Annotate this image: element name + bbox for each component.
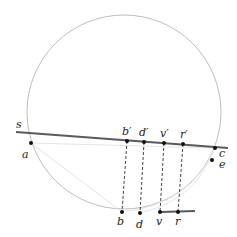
label-r_prime: r′ xyxy=(180,128,188,141)
label-b_prime: b′ xyxy=(122,125,132,138)
label-b: b xyxy=(117,215,124,228)
label-a: a xyxy=(22,148,29,161)
point-r_prime xyxy=(181,142,185,146)
label-d_prime: d′ xyxy=(139,126,149,139)
label-d: d xyxy=(136,218,143,231)
dashed-line xyxy=(178,144,183,212)
label-v_prime: v′ xyxy=(160,127,169,140)
point-e xyxy=(210,158,214,162)
dashed-line xyxy=(122,141,127,212)
point-b xyxy=(120,210,124,214)
faint-arc xyxy=(140,152,213,213)
label-e: e xyxy=(219,158,226,171)
point-b_prime xyxy=(125,139,129,143)
point-c xyxy=(213,146,217,150)
faint-line xyxy=(31,143,122,212)
geometric-diagram: ab′d′v′r′cebdvrs xyxy=(0,0,237,237)
label-r: r xyxy=(175,215,181,228)
point-d_prime xyxy=(142,140,146,144)
point-v xyxy=(158,210,162,214)
label-v: v xyxy=(156,215,163,228)
dashed-line xyxy=(140,142,144,213)
circle xyxy=(27,15,221,209)
point-v_prime xyxy=(162,141,166,145)
point-a xyxy=(29,141,33,145)
label-s: s xyxy=(16,118,22,131)
point-r xyxy=(176,210,180,214)
dashed-projection-lines xyxy=(122,141,183,213)
point-d xyxy=(138,211,142,215)
